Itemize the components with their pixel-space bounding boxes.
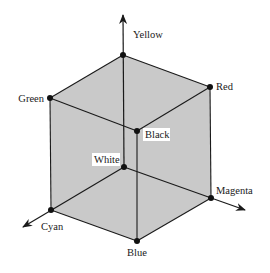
vertex-black-dot [134, 128, 140, 134]
label-black: Black [145, 129, 170, 140]
vertex-green-dot [47, 95, 53, 101]
label-blue: Blue [127, 247, 147, 258]
label-white: White [94, 154, 120, 165]
vertex-red-dot [207, 84, 213, 90]
vertex-blue-dot [134, 238, 140, 244]
vertex-cyan-dot [48, 207, 54, 213]
vertex-yellow-dot [120, 52, 126, 58]
label-yellow: Yellow [133, 29, 163, 40]
label-green: Green [18, 93, 44, 104]
label-red: Red [216, 81, 234, 92]
vertex-white-dot [121, 164, 127, 170]
vertex-magenta-dot [208, 195, 214, 201]
label-cyan: Cyan [41, 221, 64, 232]
cube-fill [50, 55, 211, 241]
color-cube-diagram: Yellow Green Red Black White Magenta Cya… [0, 0, 270, 273]
label-magenta: Magenta [216, 185, 253, 196]
